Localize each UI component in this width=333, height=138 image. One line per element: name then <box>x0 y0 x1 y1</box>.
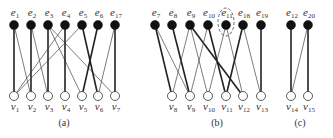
node-label-v15: v15 <box>303 100 315 114</box>
edges-layer <box>14 25 308 96</box>
node-label-v5: v5 <box>79 100 88 114</box>
node-label-e7: e7 <box>152 6 161 20</box>
node-e18 <box>239 21 248 30</box>
node-e8 <box>168 21 177 30</box>
node-e6 <box>94 21 103 30</box>
node-label-v14: v14 <box>286 100 298 114</box>
node-e2 <box>27 21 36 30</box>
edge-e7-v9 <box>155 25 190 96</box>
node-label-v11: v11 <box>221 100 233 114</box>
node-e4 <box>61 21 70 30</box>
node-e12 <box>287 21 296 30</box>
edge-e4-v1 <box>14 25 65 96</box>
node-label-e18: e18 <box>238 6 250 20</box>
node-e3 <box>44 21 53 30</box>
node-label-v9: v9 <box>187 100 196 114</box>
node-label-e20: e20 <box>303 6 315 20</box>
caption-a: (a) <box>58 117 69 129</box>
node-e10 <box>204 21 213 30</box>
node-e20 <box>304 21 313 30</box>
node-label-e9: e9 <box>187 6 196 20</box>
edge-e3-v7 <box>48 25 115 96</box>
node-label-v12: v12 <box>238 100 250 114</box>
node-label-e3: e3 <box>45 6 54 20</box>
node-e7 <box>151 21 160 30</box>
node-e1 <box>10 21 19 30</box>
node-e19 <box>257 21 266 30</box>
node-label-v8: v8 <box>169 100 178 114</box>
node-label-e4: e4 <box>62 6 71 20</box>
node-label-v13: v13 <box>256 100 268 114</box>
node-label-v3: v3 <box>45 100 54 114</box>
captions-layer: (a)(b)(c) <box>58 117 305 129</box>
node-label-v10: v10 <box>203 100 215 114</box>
node-label-e6: e6 <box>95 6 104 20</box>
node-label-e10: e10 <box>203 6 215 20</box>
bipartite-graph-figure: e1e2e3e4e5e6e17v1v2v3v4v5v6v7e7e8e9e10e1… <box>0 0 333 138</box>
edge-e18-v13 <box>243 25 261 96</box>
edge-e1-v2 <box>14 25 31 96</box>
node-label-e8: e8 <box>169 6 178 20</box>
node-label-e2: e2 <box>28 6 37 20</box>
node-label-e17: e17 <box>110 6 122 20</box>
node-label-v6: v6 <box>95 100 104 114</box>
edge-e20-v14 <box>291 25 308 96</box>
edge-e17-v6 <box>98 25 115 96</box>
node-e9 <box>186 21 195 30</box>
caption-b: (b) <box>211 117 223 129</box>
node-e5 <box>78 21 87 30</box>
caption-c: (c) <box>294 117 305 129</box>
node-label-v2: v2 <box>28 100 37 114</box>
node-label-v4: v4 <box>62 100 71 114</box>
node-label-e12: e12 <box>286 6 298 20</box>
node-label-e19: e19 <box>256 6 268 20</box>
node-label-e5: e5 <box>79 6 88 20</box>
node-e11 <box>222 21 231 30</box>
node-label-v1: v1 <box>11 100 20 114</box>
node-label-v7: v7 <box>112 100 121 114</box>
node-label-e1: e1 <box>11 6 20 20</box>
edge-e7-v8 <box>155 25 172 96</box>
node-label-e11: e11 <box>221 6 233 20</box>
node-e17 <box>111 21 120 30</box>
